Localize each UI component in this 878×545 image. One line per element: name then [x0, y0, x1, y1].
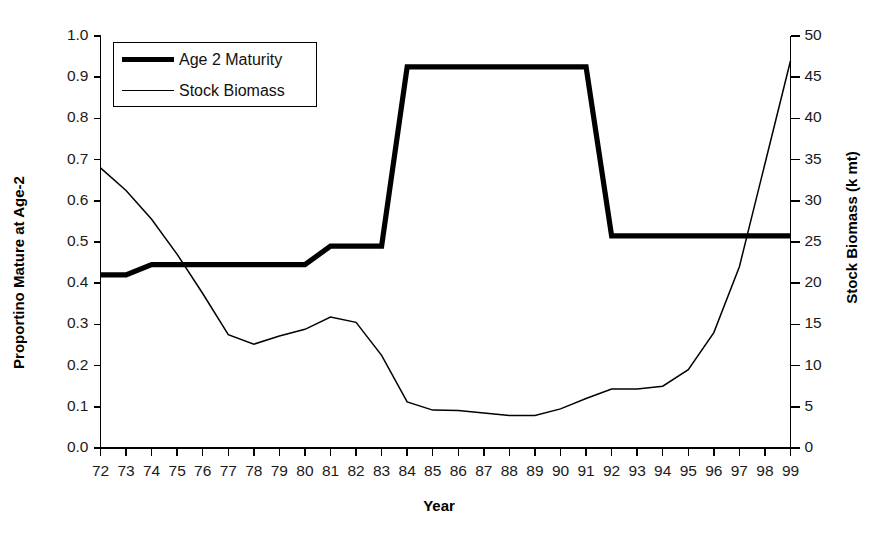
y-tick-label-right: 20: [805, 273, 839, 291]
x-tick-label: 91: [572, 462, 600, 480]
y-tick-label-left: 0.5: [41, 232, 89, 250]
y-tick-label-right: 45: [805, 67, 839, 85]
x-tick-label: 88: [495, 462, 523, 480]
x-tick-label: 75: [163, 462, 191, 480]
legend-swatch-thick-line-icon: [121, 57, 175, 62]
y-tick-label-right: 10: [805, 356, 839, 374]
x-tick-label: 82: [342, 462, 370, 480]
y-tick-label-left: 0.1: [41, 397, 89, 415]
y-tick-label-left: 0.9: [41, 67, 89, 85]
x-tick-label: 73: [112, 462, 140, 480]
x-tick-label: 94: [649, 462, 677, 480]
x-tick-label: 80: [291, 462, 319, 480]
legend-label: Stock Biomass: [179, 82, 285, 100]
x-tick-label: 84: [393, 462, 421, 480]
y-tick-label-right: 30: [805, 191, 839, 209]
y-tick-label-left: 0.2: [41, 356, 89, 374]
legend-label: Age 2 Maturity: [179, 51, 282, 69]
x-tick-label: 89: [521, 462, 549, 480]
y-axis-label-left: Proportino Mature at Age-2: [0, 0, 36, 545]
y-tick-label-left: 1.0: [41, 26, 89, 44]
y-tick-label-right: 15: [805, 314, 839, 332]
x-tick-label: 97: [725, 462, 753, 480]
legend-swatch-thin-line-icon: [121, 90, 175, 91]
y-tick-label-right: 0: [805, 438, 839, 456]
x-tick-label: 90: [547, 462, 575, 480]
x-tick-label: 72: [87, 462, 115, 480]
y-tick-label-right: 25: [805, 232, 839, 250]
chart-figure: Proportino Mature at Age-2 Stock Biomass…: [0, 0, 878, 545]
x-tick-label: 74: [138, 462, 166, 480]
y-tick-label-right: 5: [805, 397, 839, 415]
x-tick-label: 76: [189, 462, 217, 480]
x-tick-label: 83: [368, 462, 396, 480]
legend-item-stock-biomass: Stock Biomass: [114, 75, 316, 106]
x-tick-label: 79: [265, 462, 293, 480]
x-tick-label: 93: [623, 462, 651, 480]
x-tick-label: 99: [777, 462, 805, 480]
y-tick-label-left: 0.4: [41, 273, 89, 291]
x-tick-label: 96: [700, 462, 728, 480]
y-tick-label-left: 0.3: [41, 314, 89, 332]
y-tick-label-right: 50: [805, 26, 839, 44]
legend-item-age-2-maturity: Age 2 Maturity: [114, 44, 316, 75]
y-tick-label-left: 0.6: [41, 191, 89, 209]
x-axis-label: Year: [0, 497, 878, 514]
data-series: [101, 61, 791, 416]
y-tick-label-right: 35: [805, 150, 839, 168]
x-tick-label: 98: [751, 462, 779, 480]
x-tick-label: 86: [444, 462, 472, 480]
x-tick-label: 92: [598, 462, 626, 480]
x-tick-label: 78: [240, 462, 268, 480]
x-tick-label: 81: [317, 462, 345, 480]
x-tick-label: 95: [674, 462, 702, 480]
x-tick-label: 77: [214, 462, 242, 480]
y-tick-label-left: 0.7: [41, 150, 89, 168]
x-tick-label: 87: [470, 462, 498, 480]
y-tick-label-left: 0.0: [41, 438, 89, 456]
x-tick-label: 85: [419, 462, 447, 480]
y-tick-label-right: 40: [805, 108, 839, 126]
y-tick-label-left: 0.8: [41, 108, 89, 126]
legend: Age 2 Maturity Stock Biomass: [113, 42, 317, 107]
